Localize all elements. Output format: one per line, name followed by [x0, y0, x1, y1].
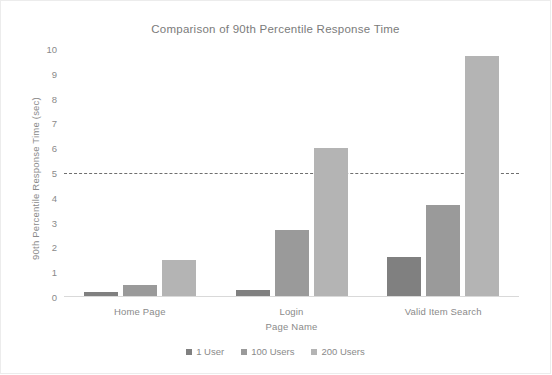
y-axis-tick-label: 3	[52, 217, 57, 228]
y-axis-tick-label: 6	[52, 143, 57, 154]
legend-label: 1 User	[196, 346, 224, 357]
chart-title: Comparison of 90th Percentile Response T…	[1, 23, 550, 35]
legend-item[interactable]: 100 Users	[241, 346, 294, 357]
y-axis-tick-label: 2	[52, 242, 57, 253]
bar-group: Home Page	[64, 49, 216, 297]
x-axis-title: Page Name	[64, 321, 519, 332]
legend-label: 200 Users	[321, 346, 364, 357]
bar[interactable]	[387, 257, 421, 297]
bar[interactable]	[314, 148, 348, 297]
bar-group-bars	[367, 49, 519, 297]
legend-item[interactable]: 200 Users	[311, 346, 364, 357]
x-axis-category-label: Home Page	[64, 306, 216, 317]
y-axis-title: 90th Percentile Response Time (sec)	[30, 79, 41, 279]
x-axis-category-label: Login	[216, 306, 368, 317]
x-axis-line	[64, 296, 519, 297]
bar-group-bars	[216, 49, 368, 297]
legend-swatch-icon	[311, 349, 317, 355]
legend-swatch-icon	[186, 349, 192, 355]
y-axis-tick-label: 7	[52, 118, 57, 129]
y-axis-tick-label: 8	[52, 93, 57, 104]
plot-area: 012345678910 Home PageLoginValid Item Se…	[64, 49, 519, 297]
legend-item[interactable]: 1 User	[186, 346, 224, 357]
y-axis-tick-label: 5	[52, 168, 57, 179]
legend-label: 100 Users	[251, 346, 294, 357]
bar-groups: Home PageLoginValid Item Search	[64, 49, 519, 297]
legend-swatch-icon	[241, 349, 247, 355]
y-axis-tick-label: 0	[52, 292, 57, 303]
bar[interactable]	[465, 56, 499, 297]
x-axis-category-label: Valid Item Search	[367, 306, 519, 317]
bar[interactable]	[426, 205, 460, 297]
bar-group: Valid Item Search	[367, 49, 519, 297]
bar[interactable]	[275, 230, 309, 297]
bar[interactable]	[162, 260, 196, 297]
chart-container: Comparison of 90th Percentile Response T…	[0, 0, 551, 374]
y-axis-tick-label: 9	[52, 68, 57, 79]
bar-group: Login	[216, 49, 368, 297]
y-axis-tick-label: 4	[52, 192, 57, 203]
y-axis-tick-label: 1	[52, 267, 57, 278]
bar-group-bars	[64, 49, 216, 297]
chart-legend: 1 User100 Users200 Users	[1, 346, 550, 357]
y-axis-tick-label: 10	[46, 44, 57, 55]
